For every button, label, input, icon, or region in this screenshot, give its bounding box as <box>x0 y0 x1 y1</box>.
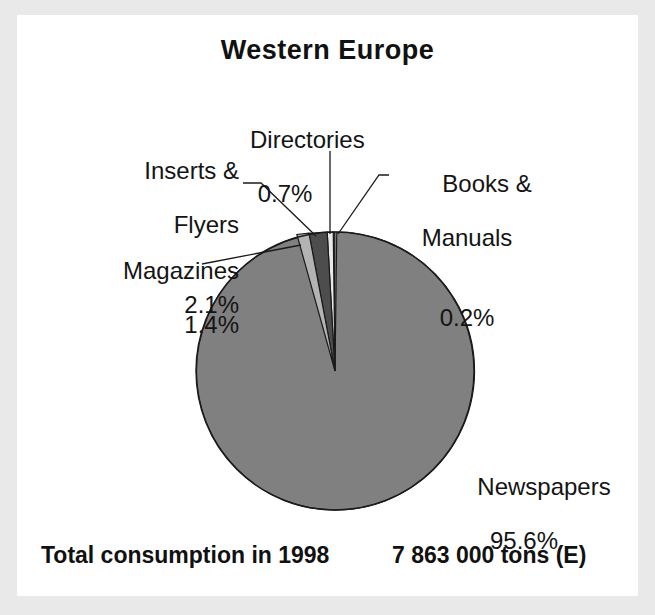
pie-label-newspapers: Newspapers 95.6% <box>424 447 624 608</box>
pie-label-directories-name: Directories <box>250 126 365 153</box>
pie-label-books-percent: 0.2% <box>387 305 547 332</box>
footer-total-consumption-label: Total consumption in 1998 <box>41 542 329 569</box>
chart-page: Western Europe Directories 0.7% <box>0 0 655 615</box>
chart-footer: Total consumption in 1998 7 863 000 tons… <box>17 542 638 582</box>
pie-label-magazines-name: Magazines <box>123 257 239 284</box>
pie-label-inserts-line1: Inserts & <box>144 157 239 184</box>
pie-label-magazines-percent: 1.4% <box>47 312 239 339</box>
pie-label-books-line1: Books & <box>442 170 531 197</box>
pie-label-magazines: Magazines 1.4% <box>47 231 239 392</box>
pie-label-newspapers-name: Newspapers <box>477 473 610 500</box>
pie-label-books-and-manuals: Books & Manuals 0.2% <box>387 144 547 386</box>
pie-label-books-line2: Manuals <box>387 225 547 252</box>
footer-total-consumption-value: 7 863 000 tons (E) <box>392 542 586 569</box>
chart-canvas: Western Europe Directories 0.7% <box>17 15 638 596</box>
